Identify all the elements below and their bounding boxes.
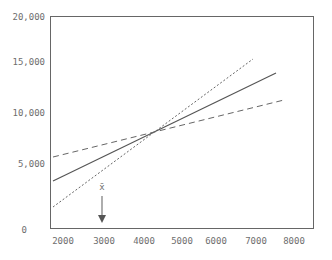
x-tick-label: 4000	[133, 236, 155, 246]
x-tick-label: 3000	[93, 236, 115, 246]
y-tick-label: 10,000	[12, 108, 45, 118]
plot-frame	[51, 17, 314, 229]
mean-x-label: x̄	[99, 182, 105, 192]
y-tick-label: 20,000	[12, 12, 45, 22]
outer-band-line	[53, 100, 284, 157]
x-tick-label: 7000	[245, 236, 267, 246]
y-tick-label: 5,000	[18, 159, 45, 169]
x-tick-label: 2000	[52, 236, 74, 246]
y-axis-labels: 20,000 15,000 10,000 5,000 0	[12, 12, 45, 235]
x-tick-label: 6000	[205, 236, 227, 246]
inner-band-line	[53, 59, 253, 207]
y-tick-label: 15,000	[12, 57, 45, 67]
regression-line	[53, 73, 276, 181]
y-tick-label: 0	[22, 225, 27, 235]
x-tick-label: 5000	[171, 236, 193, 246]
mean-x-annotation: x̄	[98, 182, 106, 223]
x-axis-labels: 2000 3000 4000 5000 6000 7000 8000	[52, 236, 305, 246]
chart: 20,000 15,000 10,000 5,000 0 2000 3000 4…	[0, 0, 332, 260]
x-tick-label: 8000	[283, 236, 305, 246]
arrow-down-icon	[98, 215, 106, 223]
